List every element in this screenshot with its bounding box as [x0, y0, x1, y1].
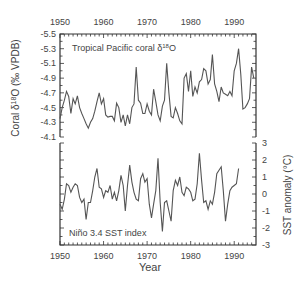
x-axis-label: Year — [139, 261, 162, 273]
svg-text:1980: 1980 — [181, 251, 201, 261]
chart-canvas: 19501960197019801990 1950196019701980199… — [0, 0, 305, 292]
svg-text:-5.3: -5.3 — [40, 44, 56, 54]
svg-text:-4.1: -4.1 — [40, 132, 56, 142]
coral-d18o-line — [60, 49, 254, 129]
svg-text:3: 3 — [262, 138, 267, 148]
svg-text:1990: 1990 — [224, 17, 244, 27]
top-panel-title: Tropical Pacific coral δ18O — [72, 43, 176, 53]
svg-text:-4.5: -4.5 — [40, 103, 56, 113]
left-y-tick-labels: -5.5-5.3-5.1-4.9-4.7-4.5-4.3-4.1 — [40, 29, 56, 142]
bottom-x-tick-labels: 19501960197019801990 — [50, 251, 244, 261]
svg-text:-3: -3 — [262, 240, 270, 250]
svg-text:1970: 1970 — [137, 17, 157, 27]
svg-text:-4.9: -4.9 — [40, 73, 56, 83]
bottom-panel-title: Niño 3.4 SST index — [69, 228, 147, 238]
svg-text:-4.3: -4.3 — [40, 117, 56, 127]
svg-text:1970: 1970 — [137, 251, 157, 261]
svg-text:1950: 1950 — [50, 17, 70, 27]
svg-text:1960: 1960 — [94, 17, 114, 27]
svg-text:1950: 1950 — [50, 251, 70, 261]
svg-text:1980: 1980 — [181, 17, 201, 27]
svg-text:1960: 1960 — [94, 251, 114, 261]
nino34-sst-line — [60, 153, 239, 231]
svg-text:-5.5: -5.5 — [40, 29, 56, 39]
svg-text:-1: -1 — [262, 206, 270, 216]
right-y-axis-label: SST anomaly (°C) — [282, 155, 293, 236]
left-y-axis-label: Coral δ18O (‰ VPDB) — [10, 39, 21, 136]
svg-text:-2: -2 — [262, 223, 270, 233]
svg-text:-4.7: -4.7 — [40, 88, 56, 98]
top-x-tick-labels: 19501960197019801990 — [50, 17, 244, 27]
svg-text:1990: 1990 — [224, 251, 244, 261]
svg-text:2: 2 — [262, 155, 267, 165]
right-y-tick-labels: 3210-1-2-3 — [262, 138, 270, 250]
svg-text:1: 1 — [262, 172, 267, 182]
svg-text:0: 0 — [262, 189, 267, 199]
svg-text:-5.1: -5.1 — [40, 58, 56, 68]
